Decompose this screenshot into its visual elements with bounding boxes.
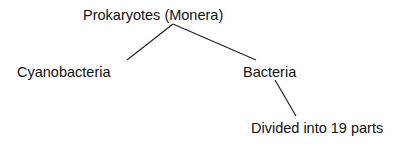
edge-root-cyanobacteria bbox=[127, 24, 173, 60]
edge-root-bacteria bbox=[173, 24, 256, 60]
node-divided: Divided into 19 parts bbox=[251, 120, 383, 136]
node-bacteria: Bacteria bbox=[243, 64, 296, 80]
edge-bacteria-divided bbox=[275, 80, 296, 116]
node-root: Prokaryotes (Monera) bbox=[83, 7, 223, 23]
node-cyanobacteria: Cyanobacteria bbox=[17, 64, 111, 80]
tree-diagram: Prokaryotes (Monera) Cyanobacteria Bacte… bbox=[0, 0, 407, 144]
